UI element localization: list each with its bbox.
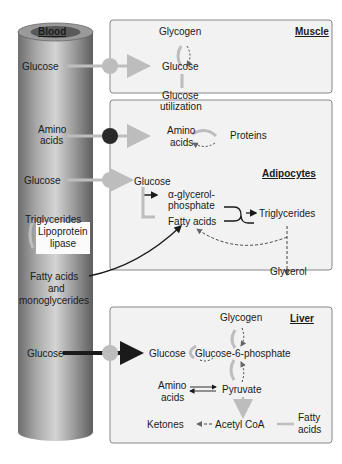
lipase-label-1: Lipoprotein (38, 226, 87, 237)
vessel-triglycerides: Triglycerides (25, 214, 81, 225)
adipocytes-title: Adipocytes (262, 168, 316, 179)
liver-g6p: Glucose-6-phosphate (195, 348, 291, 359)
liver-amino-1: Amino (158, 380, 186, 391)
adipo-fatty-acids: Fatty acids (168, 216, 216, 227)
vessel-amino-1: Amino (38, 124, 66, 135)
liver-amino-2: acids (161, 392, 184, 403)
adipo-glycerol: Glycerol (270, 266, 307, 277)
liver-fatty-2: acids (298, 424, 321, 435)
blood-title: Blood (38, 26, 66, 37)
adipo-agp-2: phosphate (168, 200, 215, 211)
muscle-amino-1: Amino (167, 125, 195, 136)
adipo-agp-1: α-glycerol- (168, 189, 215, 200)
vessel-amino-2: acids (40, 135, 63, 146)
liver-glycogen: Glycogen (220, 312, 262, 323)
adipo-triglycerides: Triglycerides (259, 208, 315, 219)
muscle-proteins: Proteins (230, 130, 267, 141)
vessel-fatty-acids-3: monoglycerides (19, 295, 89, 306)
muscle-amino-2: acids (170, 137, 193, 148)
liver-pyruvate: Pyruvate (222, 384, 261, 395)
muscle-glycogen: Glycogen (159, 26, 201, 37)
muscle-util-1: Glucose (162, 90, 199, 101)
vessel-glucose-3: Glucose (27, 348, 64, 359)
liver-fatty-1: Fatty (298, 412, 320, 423)
liver-ketones: Ketones (147, 419, 184, 430)
muscle-glucose: Glucose (162, 61, 199, 72)
muscle-util-2: utilization (160, 101, 202, 112)
vessel-glucose-2: Glucose (24, 175, 61, 186)
liver-acetyl-coa: Acetyl CoA (215, 419, 264, 430)
vessel-fatty-acids-2: and (48, 283, 65, 294)
lipase-label-2: lipase (50, 238, 76, 249)
muscle-title: Muscle (295, 26, 329, 37)
liver-glucose: Glucose (149, 348, 186, 359)
liver-title: Liver (290, 313, 314, 324)
vessel-glucose-1: Glucose (22, 61, 59, 72)
adipo-glucose: Glucose (134, 176, 171, 187)
vessel-fatty-acids-1: Fatty acids (30, 271, 78, 282)
